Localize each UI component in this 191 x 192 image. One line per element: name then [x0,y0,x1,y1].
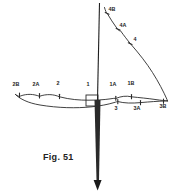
label-4: 4 [133,36,136,42]
figure-caption: Fig. 51 [43,152,74,162]
label-2A: 2A [32,81,39,87]
label-3B: 3B [159,103,166,109]
axis-upper-segment [98,3,100,100]
label-3: 3 [114,105,117,111]
upper-curve-ticks [20,93,132,100]
axis-lower-wedge [95,100,101,180]
label-1A: 1A [109,81,116,87]
label-1: 1 [86,81,89,87]
label-4B: 4B [108,6,115,12]
tick-4B [105,13,109,15]
tick-4A [116,28,120,30]
label-4A: 4A [119,22,126,28]
label-3A: 3A [133,105,140,111]
label-1B: 1B [127,80,134,86]
label-2: 2 [56,80,59,86]
figure-container: 2B 2A 2 1 1A 1B 3 3A 3B 4B 4A 4 Fig. 51 [0,0,191,192]
axis-arrow-head [94,180,102,191]
figure-drawing: 2B 2A 2 1 1A 1B 3 3A 3B 4B 4A 4 Fig. 51 [0,0,191,192]
label-2B: 2B [12,81,19,87]
